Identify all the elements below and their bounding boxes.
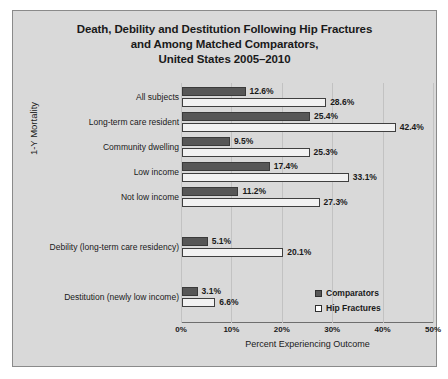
bar-comparators [182,137,230,146]
bar-hipfx [182,248,283,257]
bar-group: 9.5%25.3% [181,137,434,159]
bar-hipfx [182,98,326,107]
category-label: Long-term care resident [19,117,179,127]
category-label: Low income [19,167,179,177]
bar-value-label: 6.6% [219,298,238,307]
bar-value-label: 25.3% [314,148,338,157]
x-tick-label: 0% [175,325,187,334]
x-tick-label: 40% [375,325,391,334]
bar-comparators [182,112,310,121]
chart-title-line-3: United States 2005–2010 [13,52,436,67]
bar-group: 3.1%6.6% [181,287,434,309]
x-tick-label: 10% [223,325,239,334]
bar-hipfx [182,173,349,182]
chart-title-line-1: Death, Debility and Destitution Followin… [13,22,436,37]
legend-swatch-hip-fractures-icon [315,305,322,312]
chart-title-line-2: and Among Matched Comparators, [13,37,436,52]
bar-value-label: 25.4% [314,112,338,121]
legend-item-comparators: Comparators [315,288,381,298]
x-tick-label: 20% [274,325,290,334]
legend-label-hip-fractures: Hip Fractures [326,303,381,313]
chart-title: Death, Debility and Destitution Followin… [13,22,436,67]
category-label-column: All subjectsLong-term care residentCommu… [17,83,179,323]
bar-comparators [182,237,208,246]
bar-value-label: 27.3% [324,198,348,207]
chart-figure: Death, Debility and Destitution Followin… [12,10,437,367]
category-label: Community dwelling [19,142,179,152]
bar-comparators [182,287,198,296]
legend-label-comparators: Comparators [326,288,379,298]
bar-value-label: 3.1% [202,287,221,296]
chart-legend: Comparators Hip Fractures [315,288,381,318]
category-label: All subjects [19,92,179,102]
bar-group: 11.2%27.3% [181,187,434,209]
bar-group: 17.4%33.1% [181,162,434,184]
bar-group: 25.4%42.4% [181,112,434,134]
bar-hipfx [182,123,396,132]
bar-hipfx [182,198,320,207]
x-axis-line [181,322,434,323]
plot-area: 12.6%28.6%25.4%42.4%9.5%25.3%17.4%33.1%1… [181,83,434,323]
bar-value-label: 9.5% [234,137,253,146]
bar-value-label: 17.4% [274,162,298,171]
bar-hipfx [182,148,310,157]
x-axis-title: Percent Experiencing Outcome [181,339,434,349]
category-label: Not low income [19,192,179,202]
x-tick-label: 30% [324,325,340,334]
x-tick-label: 50% [425,325,441,334]
bar-comparators [182,87,246,96]
bar-value-label: 33.1% [353,173,377,182]
bar-group: 12.6%28.6% [181,87,434,109]
bar-comparators [182,187,238,196]
bar-group: 5.1%20.1% [181,237,434,259]
bar-value-label: 20.1% [287,248,311,257]
legend-swatch-comparators-icon [315,290,322,297]
x-axis-tick-labels: 0%10%20%30%40%50% [181,325,434,337]
bar-value-label: 5.1% [212,237,231,246]
bar-value-label: 12.6% [250,87,274,96]
bar-value-label: 11.2% [242,187,266,196]
bar-value-label: 42.4% [400,123,424,132]
legend-item-hip-fractures: Hip Fractures [315,303,381,313]
bar-value-label: 28.6% [330,98,354,107]
bar-comparators [182,162,270,171]
category-label: Debility (long-term care residency) [19,242,179,252]
category-label: Destitution (newly low income) [19,292,179,302]
bar-hipfx [182,298,215,307]
